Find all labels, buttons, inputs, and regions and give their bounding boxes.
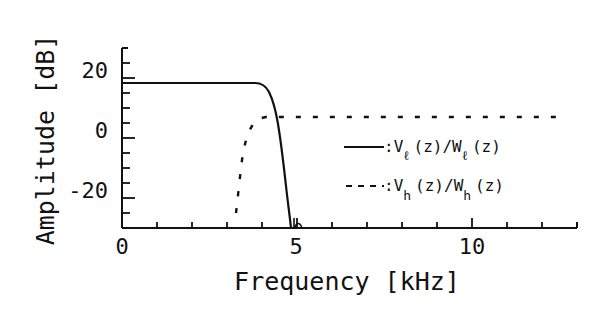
amplitude-frequency-chart: 20 0 -20 0 5 10 Amplitude [dB] Frequency…: [0, 0, 605, 320]
x-ticks: [157, 218, 542, 228]
y-tick-label-0: 0: [95, 118, 108, 143]
legend-item-dashed: :Vh(z)/Wh(z): [346, 176, 504, 203]
legend-solid-suffix: (z): [472, 137, 501, 156]
x-tick-label-10: 10: [459, 234, 486, 259]
legend: :Vℓ(z)/Wℓ(z) :Vh(z)/Wh(z): [344, 137, 504, 203]
legend-solid-sub2: ℓ: [462, 148, 468, 163]
legend-solid-prefix: :V: [384, 137, 404, 156]
legend-solid-sub1: ℓ: [403, 148, 409, 163]
series-solid-lowpass: [122, 83, 291, 228]
svg-text::Vh(z)/Wh(z): :Vh(z)/Wh(z): [384, 176, 504, 203]
legend-dashed-sub2: h: [463, 188, 471, 203]
legend-dashed-suffix: (z): [475, 176, 504, 195]
legend-solid-mid: (z)/W: [414, 137, 463, 156]
svg-text::Vℓ(z)/Wℓ(z): :Vℓ(z)/Wℓ(z): [384, 137, 501, 163]
series-solid-ripple: [294, 218, 302, 228]
legend-dashed-sub1: h: [403, 188, 411, 203]
y-tick-label-20: 20: [82, 58, 109, 83]
y-tick-label-minus20: -20: [68, 178, 108, 203]
y-axis-title: Amplitude [dB]: [31, 35, 60, 246]
x-axis-title: Frequency [kHz]: [234, 267, 460, 296]
x-tick-label-0: 0: [115, 234, 128, 259]
legend-dashed-mid: (z)/W: [415, 176, 464, 195]
y-ticks: [122, 63, 135, 213]
x-tick-label-5: 5: [289, 234, 302, 259]
legend-dashed-prefix: :V: [384, 176, 404, 195]
axes: [122, 48, 577, 228]
series-dashed-highpass: [236, 117, 566, 213]
legend-item-solid: :Vℓ(z)/Wℓ(z): [344, 137, 501, 163]
